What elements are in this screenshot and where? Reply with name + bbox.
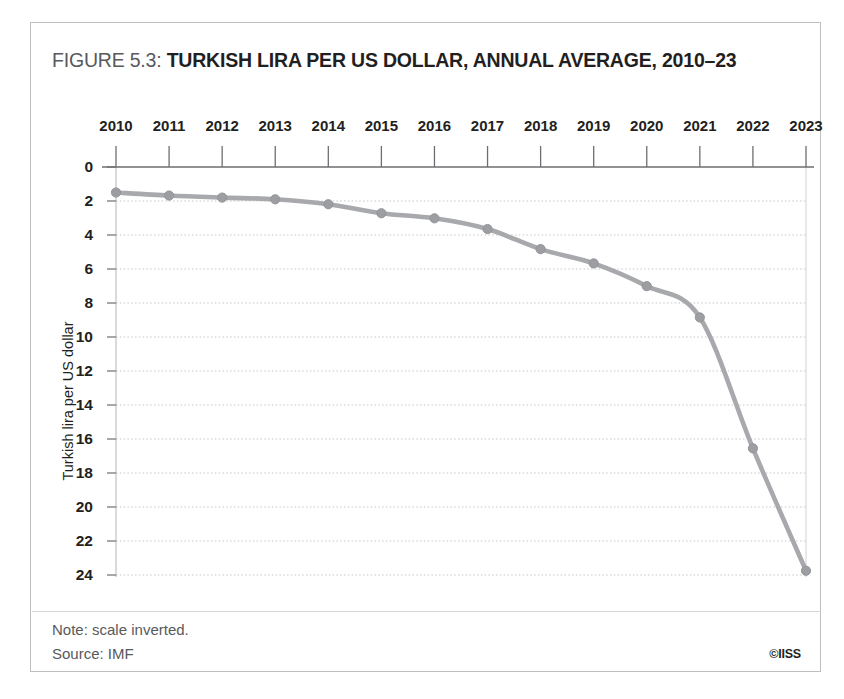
data-point-marker (801, 566, 810, 575)
y-axis-tick-label: 2 (59, 192, 93, 210)
data-point-marker (111, 188, 120, 197)
data-line (116, 193, 806, 571)
x-axis-tick-label: 2010 (88, 117, 144, 134)
y-axis-tick-label: 6 (59, 260, 93, 278)
data-point-marker (218, 193, 227, 202)
data-point-marker (324, 200, 333, 209)
x-axis-tick-label: 2015 (353, 117, 409, 134)
x-axis-tick-label: 2014 (300, 117, 356, 134)
x-axis-tick-label: 2018 (513, 117, 569, 134)
y-axis-tick-label: 24 (59, 566, 93, 584)
x-axis-tick-label: 2012 (194, 117, 250, 134)
x-axis-tick-label: 2019 (566, 117, 622, 134)
chart-source: Source: IMF (52, 645, 134, 662)
x-axis-tick-label: 2017 (460, 117, 516, 134)
x-axis-tick-label: 2011 (141, 117, 197, 134)
data-point-marker (271, 195, 280, 204)
y-axis-tick-label: 10 (59, 328, 93, 346)
data-point-marker (164, 191, 173, 200)
footer-divider (32, 611, 821, 612)
x-axis-tick-label: 2023 (778, 117, 834, 134)
y-axis-tick-label: 0 (59, 158, 93, 176)
y-axis-tick-label: 18 (59, 464, 93, 482)
data-point-marker (748, 444, 757, 453)
data-point-marker (695, 313, 704, 322)
copyright-mark: ©IISS (769, 647, 801, 661)
y-axis-tick-label: 14 (59, 396, 93, 414)
chart-note: Note: scale inverted. (52, 621, 189, 638)
x-axis-tick-label: 2021 (672, 117, 728, 134)
data-point-marker (430, 214, 439, 223)
x-axis-tick-label: 2020 (619, 117, 675, 134)
y-axis-tick-label: 16 (59, 430, 93, 448)
data-point-marker (483, 224, 492, 233)
figure-panel: FIGURE 5.3: TURKISH LIRA PER US DOLLAR, … (30, 22, 821, 672)
data-point-marker (536, 245, 545, 254)
chart-canvas: Turkish lira per US dollar 2010201120122… (31, 23, 822, 673)
x-axis-tick-label: 2022 (725, 117, 781, 134)
data-point-marker (589, 259, 598, 268)
data-point-marker (642, 282, 651, 291)
y-axis-tick-label: 22 (59, 532, 93, 550)
y-axis-tick-label: 12 (59, 362, 93, 380)
y-axis-tick-label: 8 (59, 294, 93, 312)
y-axis-tick-label: 20 (59, 498, 93, 516)
x-axis-tick-label: 2013 (247, 117, 303, 134)
data-point-marker (377, 209, 386, 218)
x-axis-tick-label: 2016 (406, 117, 462, 134)
y-axis-tick-label: 4 (59, 226, 93, 244)
